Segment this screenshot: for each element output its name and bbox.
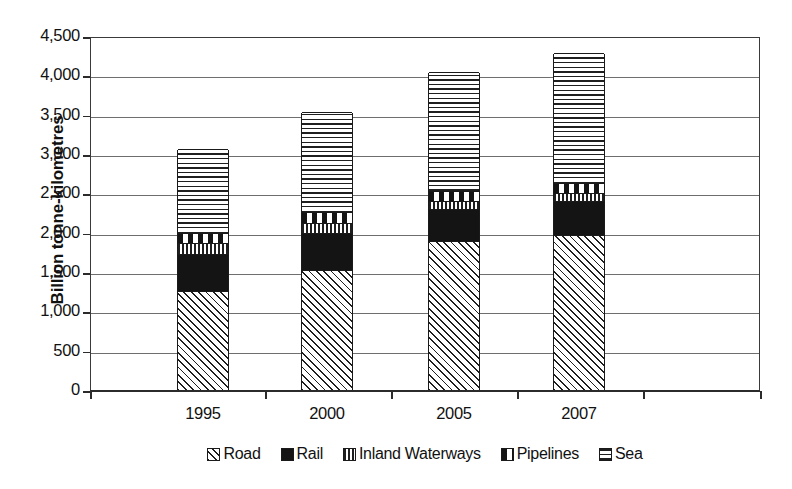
gridline [91, 117, 759, 118]
bar-segment-inland-waterways [178, 243, 228, 254]
bar-segment-sea [302, 112, 352, 213]
x-tick-label-2005: 2005 [409, 404, 499, 423]
y-tick-mark [83, 116, 90, 118]
bar-segment-rail [302, 233, 352, 270]
y-tick-mark [83, 37, 90, 39]
legend-swatch-icon [501, 448, 514, 461]
x-tick-label-2007: 2007 [534, 404, 624, 423]
y-tick-mark [83, 352, 90, 354]
y-tick-mark [83, 234, 90, 236]
bar-segment-pipelines [554, 183, 604, 193]
y-tick-mark [83, 155, 90, 157]
y-tick-label: 4,500 [4, 26, 80, 45]
y-tick-label: 1,000 [4, 301, 80, 320]
x-tick-mark [265, 391, 267, 399]
y-tick-label: 2,500 [4, 183, 80, 202]
y-tick-label: 3,500 [4, 105, 80, 124]
y-tick-label: 4,000 [4, 65, 80, 84]
y-tick-mark [83, 273, 90, 275]
legend-item-rail[interactable]: Rail [281, 445, 323, 463]
bar-segment-sea [178, 149, 228, 233]
y-tick-label: 2,000 [4, 223, 80, 242]
gridline [91, 77, 759, 78]
stacked-bar-chart: Billion tonne-kilometres 4,5004,0003,500… [0, 0, 792, 489]
x-tick-mark [760, 391, 762, 399]
y-tick-mark [83, 76, 90, 78]
legend-label: Sea [615, 445, 643, 463]
legend-item-pipelines[interactable]: Pipelines [501, 445, 579, 463]
bar-segment-pipelines [178, 233, 228, 242]
x-axis-line [90, 390, 760, 392]
bar-2005 [428, 73, 480, 391]
bar-segment-road [554, 235, 604, 390]
bar-segment-rail [178, 254, 228, 291]
bar-segment-rail [429, 209, 479, 241]
legend-label: Rail [297, 445, 323, 463]
legend-item-road[interactable]: Road [207, 445, 260, 463]
x-tick-mark [517, 391, 519, 399]
x-tick-mark [90, 391, 92, 399]
bar-segment-road [429, 241, 479, 390]
bar-segment-rail [554, 201, 604, 235]
legend-swatch-icon [343, 448, 356, 461]
y-tick-mark [83, 312, 90, 314]
legend-label: Road [223, 445, 260, 463]
chart-legend: RoadRailInland WaterwaysPipelinesSea [90, 445, 760, 463]
y-tick-mark [83, 391, 90, 393]
legend-swatch-icon [207, 448, 220, 461]
x-tick-label-2000: 2000 [282, 404, 372, 423]
x-tick-mark [643, 391, 645, 399]
legend-label: Inland Waterways [359, 445, 481, 463]
legend-swatch-icon [281, 448, 294, 461]
y-tick-mark [83, 194, 90, 196]
legend-swatch-icon [599, 448, 612, 461]
x-tick-label-1995: 1995 [158, 404, 248, 423]
bar-1995 [177, 150, 229, 391]
y-tick-label: 3,000 [4, 144, 80, 163]
y-tick-label: 0 [4, 380, 80, 399]
legend-label: Pipelines [517, 445, 579, 463]
bar-segment-sea [554, 53, 604, 183]
bar-segment-road [302, 270, 352, 390]
legend-item-sea[interactable]: Sea [599, 445, 643, 463]
bar-2000 [301, 113, 353, 391]
bar-2007 [553, 54, 605, 391]
bar-segment-road [178, 291, 228, 390]
y-tick-label: 500 [4, 341, 80, 360]
bar-segment-pipelines [302, 212, 352, 223]
bar-segment-sea [429, 72, 479, 191]
bar-segment-inland-waterways [302, 223, 352, 232]
y-tick-label: 1,500 [4, 262, 80, 281]
bar-segment-inland-waterways [554, 193, 604, 201]
bar-segment-inland-waterways [429, 201, 479, 209]
legend-item-inland-waterways[interactable]: Inland Waterways [343, 445, 481, 463]
x-tick-mark [391, 391, 393, 399]
bar-segment-pipelines [429, 191, 479, 201]
